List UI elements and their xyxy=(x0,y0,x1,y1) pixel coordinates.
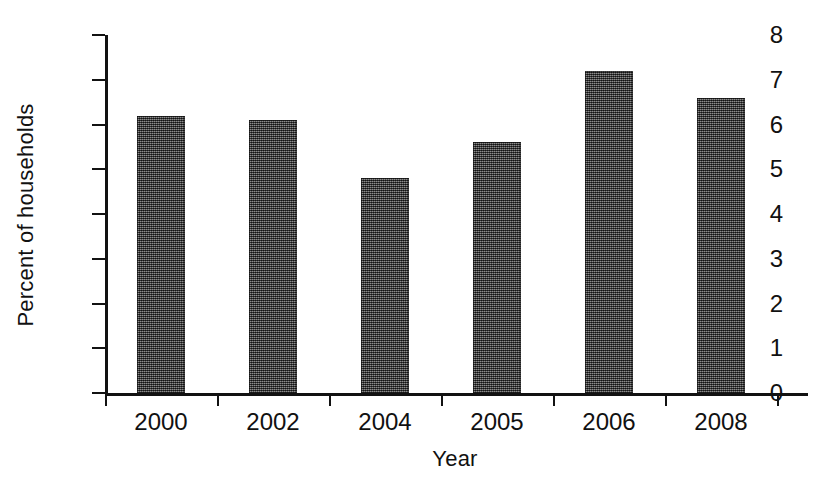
bar xyxy=(585,71,633,393)
y-axis-tick xyxy=(92,258,105,260)
x-axis-tick xyxy=(665,393,667,406)
y-axis-tick xyxy=(92,392,105,394)
bar-chart-figure: Percent of households 012345678 20002002… xyxy=(0,0,839,488)
x-axis-tick-label: 2004 xyxy=(329,410,441,434)
y-axis-tick xyxy=(92,79,105,81)
y-axis-tick-label: 2 xyxy=(743,292,783,316)
x-axis-tick-label: 2006 xyxy=(553,410,665,434)
y-axis-title: Percent of households xyxy=(0,0,52,430)
y-axis-tick xyxy=(92,303,105,305)
x-axis-title: Year xyxy=(105,446,805,472)
y-axis-tick xyxy=(92,124,105,126)
x-axis-tick xyxy=(217,393,219,406)
y-axis-tick-label: 5 xyxy=(743,157,783,181)
bar xyxy=(249,120,297,393)
x-axis-tick xyxy=(105,393,107,406)
y-axis-tick-label: 1 xyxy=(743,336,783,360)
y-axis-tick-label: 7 xyxy=(743,68,783,92)
x-axis-tick-label: 2002 xyxy=(217,410,329,434)
x-axis-tick-label: 2005 xyxy=(441,410,553,434)
y-axis-tick xyxy=(92,34,105,36)
y-axis-line xyxy=(105,35,108,394)
y-axis-tick-label: 3 xyxy=(743,247,783,271)
y-axis-tick-label: 8 xyxy=(743,23,783,47)
x-axis-tick-label: 2008 xyxy=(665,410,777,434)
bar xyxy=(697,98,745,393)
x-axis-tick xyxy=(553,393,555,406)
plot-area: 012345678 200020022004200520062008 xyxy=(105,35,805,393)
x-axis-tick xyxy=(441,393,443,406)
bar xyxy=(137,116,185,393)
y-axis-title-text: Percent of households xyxy=(13,103,39,326)
bar xyxy=(361,178,409,393)
y-axis-tick-label: 6 xyxy=(743,113,783,137)
y-axis-tick-label: 4 xyxy=(743,202,783,226)
y-axis-tick xyxy=(92,347,105,349)
y-axis-tick xyxy=(92,213,105,215)
x-axis-line xyxy=(105,393,808,396)
bar xyxy=(473,142,521,393)
y-axis-tick xyxy=(92,168,105,170)
x-axis-tick xyxy=(329,393,331,406)
x-axis-tick-label: 2000 xyxy=(105,410,217,434)
x-axis-tick xyxy=(777,393,779,406)
